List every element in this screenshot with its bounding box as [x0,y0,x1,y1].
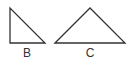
triangle-c [55,8,125,43]
triangle-b [10,8,45,43]
triangle-c-label: C [86,46,95,60]
triangle-b-label: B [23,46,31,60]
triangles-diagram: B C [0,0,130,61]
